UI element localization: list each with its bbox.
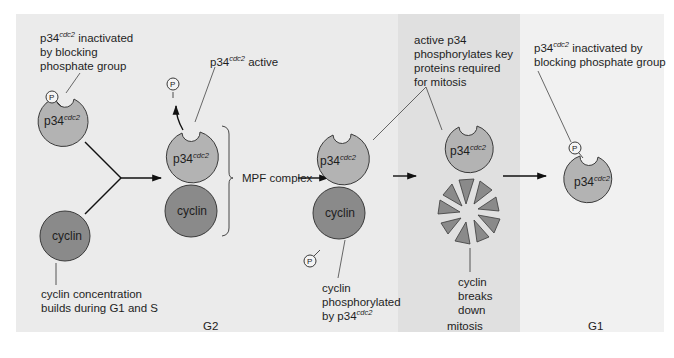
- leader-line: [338, 240, 345, 278]
- phase-label-mitosis: mitosis: [447, 320, 483, 332]
- leader-line: [538, 71, 571, 142]
- leader-line: [373, 87, 426, 140]
- phosphate-icon: P: [569, 142, 583, 158]
- svg-text:P: P: [170, 80, 175, 89]
- p34-active-mpf: p34cdc2: [166, 132, 218, 183]
- cyclin-fragments: [438, 179, 500, 244]
- label-active-p34-phosphorylates: active p34 phosphorylates key proteins r…: [414, 33, 513, 89]
- cyclin-mpf: cyclin: [165, 185, 217, 237]
- label-p34-inactive-left: p34cdc2 inactivated by blocking phosphat…: [40, 31, 133, 73]
- svg-text:P: P: [572, 144, 577, 153]
- p34-inactive-left: p34cdc2: [38, 98, 88, 147]
- p34-active-third: p34cdc2: [317, 134, 369, 185]
- label-mpf-complex: MPF complex: [242, 171, 312, 185]
- p34-mitosis: p34cdc2: [445, 126, 493, 173]
- leader-line: [426, 87, 442, 130]
- join-arrow: [85, 142, 161, 214]
- svg-text:P: P: [307, 257, 312, 266]
- phosphate-icon: P: [304, 250, 320, 267]
- svg-text:cyclin: cyclin: [177, 204, 207, 218]
- leader-line: [66, 73, 80, 93]
- phase-label-g1: G1: [588, 320, 603, 332]
- leader-line: [195, 67, 215, 122]
- p34-inactive-right: p34cdc2: [564, 156, 612, 203]
- cyclin-third: cyclin: [313, 187, 365, 239]
- label-cyclin-builds: cyclin concentration builds during G1 an…: [41, 287, 158, 315]
- label-p34-active: p34cdc2 active: [210, 55, 278, 69]
- svg-text:P: P: [49, 93, 54, 102]
- label-p34-inactive-right: p34cdc2 inactivated by blocking phosphat…: [534, 41, 666, 69]
- mpf-bracket: [222, 126, 233, 236]
- svg-text:cyclin: cyclin: [325, 206, 355, 220]
- phase-label-g2: G2: [203, 320, 218, 332]
- released-phosphate-icon: P: [167, 78, 183, 130]
- svg-text:cyclin: cyclin: [52, 229, 82, 243]
- cyclin-left: cyclin: [40, 211, 90, 261]
- label-cyclin-breaks-down: cyclin breaks down: [458, 275, 493, 317]
- label-cyclin-phosphorylated: cyclin phosphorylated by p34cdc2: [322, 281, 401, 323]
- mpf-cell-cycle-diagram: p34cdc2 P cyclin p34cdc2 cyclin: [0, 0, 674, 358]
